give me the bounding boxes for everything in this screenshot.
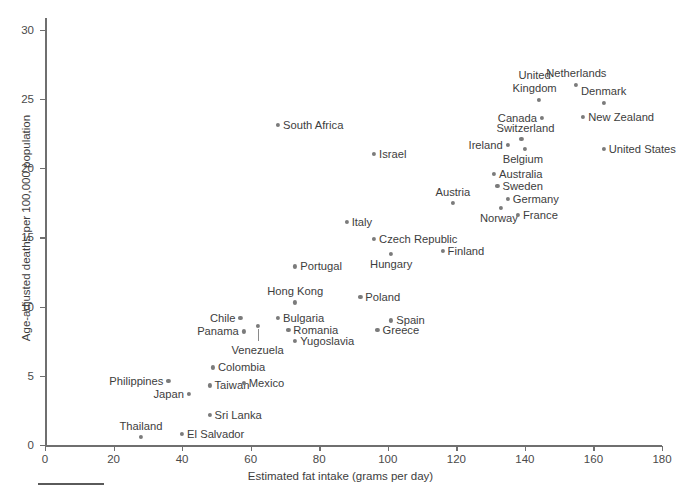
x-tick-mark (662, 446, 663, 451)
x-tick-mark (593, 446, 594, 451)
data-point-label: El Salvador (187, 428, 244, 441)
x-tick-label: 140 (515, 453, 534, 465)
x-tick-mark (114, 446, 115, 451)
data-point-label: Venezuela (231, 344, 283, 357)
x-tick-mark (456, 446, 457, 451)
data-point-label: Switzerland (497, 122, 555, 135)
data-point-label: Poland (365, 291, 400, 304)
data-point-label: Sweden (502, 180, 542, 193)
x-tick-label: 80 (313, 453, 326, 465)
data-point-label: Yugoslavia (300, 335, 354, 348)
x-tick-mark (251, 446, 252, 451)
data-point-label: Hungary (370, 258, 412, 271)
data-point-label: Austria (435, 185, 470, 198)
data-point-label: Australia (499, 167, 543, 180)
x-tick-label: 120 (447, 453, 466, 465)
data-point-label: Mexico (249, 376, 284, 389)
y-tick-label: 0 (0, 439, 34, 451)
x-tick-label: 60 (244, 453, 257, 465)
x-tick-label: 100 (378, 453, 397, 465)
data-point-label: Denmark (581, 85, 626, 98)
x-tick-label: 160 (584, 453, 603, 465)
x-tick-mark (525, 446, 526, 451)
y-tick-label: 30 (0, 24, 34, 36)
y-tick-mark (40, 30, 45, 31)
y-axis-title: Age-adjusted deaths per 100,000 populati… (20, 108, 32, 348)
data-point-label: Italy (352, 216, 373, 229)
label-leader-line (258, 329, 259, 341)
data-point-label: Germany (513, 192, 559, 205)
data-point-label: Belgium (503, 153, 543, 166)
x-tick-mark (45, 446, 46, 451)
y-tick-label: 25 (0, 93, 34, 105)
x-tick-mark (319, 446, 320, 451)
data-point-label: Panama (197, 325, 239, 338)
data-point-label: United States (609, 142, 676, 155)
data-point-label: Hong Kong (267, 285, 323, 298)
y-tick-mark (40, 237, 45, 238)
x-tick-label: 0 (42, 453, 48, 465)
data-point-label: Philippines (109, 375, 163, 388)
data-point-label: Portugal (300, 260, 342, 273)
data-point-label: Japan (153, 388, 183, 401)
data-point-label: Norway (480, 212, 518, 225)
data-point-label: Czech Republic (379, 232, 457, 245)
x-axis-line (45, 445, 662, 447)
y-tick-mark (40, 168, 45, 169)
data-point-label: Finland (448, 245, 485, 258)
footer-rule (38, 483, 104, 485)
data-point-label: France (523, 209, 558, 222)
data-point-label: UnitedKingdom (513, 69, 557, 94)
x-axis-title: Estimated fat intake (grams per day) (0, 470, 681, 482)
y-tick-mark (40, 376, 45, 377)
y-tick-mark (40, 307, 45, 308)
x-tick-label: 180 (652, 453, 671, 465)
y-tick-label: 5 (0, 370, 34, 382)
data-point-label: Thailand (120, 419, 163, 432)
data-point-label: Ireland (469, 138, 503, 151)
scatter-plot-figure: 020406080100120140160180 051015202530 Ne… (0, 0, 681, 490)
x-tick-mark (388, 446, 389, 451)
data-point-label: Colombia (218, 361, 265, 374)
y-axis-line (45, 18, 47, 445)
y-tick-mark (40, 445, 45, 446)
data-point-label: Israel (379, 148, 406, 161)
data-point-label: Bulgaria (283, 311, 324, 324)
data-point-label: Chile (210, 311, 236, 324)
x-tick-mark (182, 446, 183, 451)
x-tick-label: 40 (176, 453, 189, 465)
x-tick-label: 20 (107, 453, 120, 465)
y-tick-mark (40, 99, 45, 100)
data-point-label: Sri Lanka (215, 408, 262, 421)
data-point-label: South Africa (283, 119, 343, 132)
data-point-label: New Zealand (588, 111, 654, 124)
data-point-label: Greece (382, 324, 419, 337)
